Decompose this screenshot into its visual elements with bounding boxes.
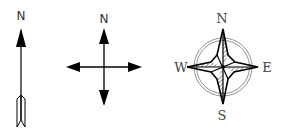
arrow-right-icon — [128, 62, 142, 72]
arrow-feather-icon — [17, 95, 25, 127]
north-label: N — [100, 12, 109, 26]
arrowhead-icon — [16, 28, 26, 47]
north-label: N — [17, 9, 26, 23]
simple-north-arrow: N — [16, 9, 26, 127]
arrow-down-icon — [99, 90, 109, 106]
north-label: N — [216, 11, 227, 26]
east-label: E — [262, 60, 272, 75]
west-label: W — [174, 60, 188, 75]
south-label: S — [218, 108, 227, 123]
north-arrow-diagram: N N N S E W — [0, 0, 282, 135]
arrow-left-icon — [66, 62, 80, 72]
compass-rose: N S E W — [174, 11, 271, 123]
compass-center — [221, 65, 225, 69]
arrow-up-icon — [99, 28, 109, 44]
four-way-north-arrow: N — [66, 12, 142, 106]
